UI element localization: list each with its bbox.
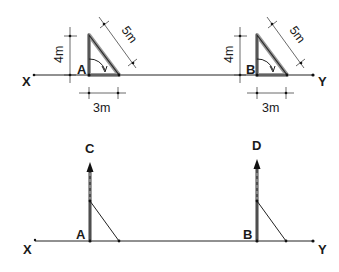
base-label-b: 3m (262, 101, 279, 115)
bottom-diagram: X Y C A D B (23, 138, 327, 257)
baseline-start-dot (33, 74, 36, 77)
point-a-label: A (76, 227, 86, 242)
height-label-b: 4m (222, 46, 236, 63)
x-label: X (22, 74, 31, 89)
point-c-label: C (85, 141, 95, 156)
point-a-label: A (77, 62, 87, 77)
point-b-label: B (246, 62, 255, 77)
baseline-end-dot (311, 73, 314, 76)
arrow-up-icon (254, 159, 261, 169)
hypotenuse-label-b: 5m (287, 24, 309, 46)
base-label-a: 3m (93, 101, 110, 115)
base-dimension-b: 3m (247, 87, 294, 115)
hypotenuse-dimension-b: 5m (267, 17, 308, 68)
right-angle-arc (257, 59, 273, 70)
y-label: Y (318, 74, 327, 89)
hypotenuse-label-a: 5m (119, 24, 141, 46)
x-label: X (23, 242, 32, 257)
height-label-a: 4m (52, 46, 66, 63)
arrow-up-icon (87, 162, 94, 172)
bottom-baseline: X Y (23, 239, 327, 257)
perpendicular-a: C A (76, 141, 120, 243)
point-b-label: B (243, 227, 252, 242)
point-d-label: D (252, 138, 261, 153)
top-diagram: X Y A 4m (22, 17, 327, 115)
right-angle-arc (89, 59, 105, 70)
base-dimension-a: 3m (79, 87, 126, 115)
hypotenuse-dimension-a: 5m (99, 17, 140, 68)
perpendicular-b: D B (243, 138, 287, 243)
y-label: Y (318, 242, 327, 257)
triangle-a: A 4m 3m (52, 17, 140, 115)
setting-out-diagram: X Y A 4m (0, 0, 339, 272)
triangle-b: B 4m 3m (222, 17, 308, 115)
